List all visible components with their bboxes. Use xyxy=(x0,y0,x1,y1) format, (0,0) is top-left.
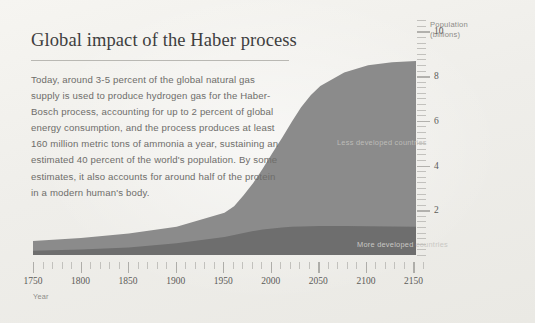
y-axis: 108642 xyxy=(417,18,477,255)
x-axis-minor-tick xyxy=(233,262,234,269)
x-axis-minor-tick xyxy=(309,262,310,269)
y-axis-major-tick xyxy=(417,121,430,122)
x-axis-minor-tick xyxy=(280,262,281,269)
x-axis-label: 1900 xyxy=(166,276,185,286)
y-axis-label: 4 xyxy=(434,161,439,171)
x-axis-minor-tick xyxy=(147,262,148,269)
x-axis-minor-tick xyxy=(356,262,357,269)
y-axis-minor-tick xyxy=(417,233,426,234)
y-axis-minor-tick xyxy=(417,216,426,217)
x-axis-minor-tick xyxy=(242,262,243,269)
x-axis-label: 2100 xyxy=(356,276,375,286)
y-axis-label: 8 xyxy=(434,71,439,81)
page-title: Global impact of the Haber process xyxy=(31,30,299,51)
x-axis-minor-tick xyxy=(204,262,205,269)
y-axis-minor-tick xyxy=(417,104,426,105)
x-axis-major-tick xyxy=(366,262,367,273)
y-axis-minor-tick xyxy=(417,98,426,99)
x-axis-minor-tick xyxy=(337,262,338,269)
x-axis-minor-tick xyxy=(71,262,72,269)
x-axis-major-tick xyxy=(223,262,224,273)
y-axis-minor-tick xyxy=(417,43,426,44)
x-axis-minor-tick xyxy=(328,262,329,269)
y-axis-minor-tick xyxy=(417,65,426,66)
x-axis-minor-tick xyxy=(62,262,63,269)
y-axis-minor-tick xyxy=(417,238,426,239)
x-axis-minor-tick xyxy=(290,262,291,269)
y-axis-minor-tick xyxy=(417,132,426,133)
x-axis-minor-tick xyxy=(90,262,91,269)
x-axis-minor-tick xyxy=(43,262,44,269)
y-axis-minor-tick xyxy=(417,149,426,150)
y-axis-minor-tick xyxy=(417,255,426,256)
x-axis-minor-tick xyxy=(100,262,101,269)
y-axis-minor-tick xyxy=(417,82,426,83)
y-axis-label: 10 xyxy=(434,26,444,36)
y-axis-major-tick xyxy=(417,210,430,211)
body-paragraph: Today, around 3-5 percent of the global … xyxy=(31,72,283,201)
y-axis-minor-tick xyxy=(417,126,426,127)
x-axis-major-tick xyxy=(271,262,272,273)
x-axis-minor-tick xyxy=(195,262,196,269)
x-axis-minor-tick xyxy=(404,262,405,269)
x-axis-major-tick xyxy=(176,262,177,273)
x-axis-label: 2050 xyxy=(309,276,328,286)
y-axis-minor-tick xyxy=(417,249,426,250)
y-axis-minor-tick xyxy=(417,26,426,27)
y-axis-minor-tick xyxy=(417,87,426,88)
y-axis-minor-tick xyxy=(417,37,426,38)
x-axis-major-tick xyxy=(413,262,414,273)
y-axis-minor-tick xyxy=(417,48,426,49)
series-label-less-developed: Less developed countries xyxy=(337,138,427,147)
x-axis-label: 2000 xyxy=(261,276,280,286)
y-axis-minor-tick xyxy=(417,227,426,228)
x-axis-minor-tick xyxy=(109,262,110,269)
x-axis xyxy=(33,262,423,276)
x-axis-minor-tick xyxy=(119,262,120,269)
y-axis-minor-tick xyxy=(417,115,426,116)
x-axis-minor-tick xyxy=(166,262,167,269)
x-axis-minor-tick xyxy=(138,262,139,269)
y-axis-minor-tick xyxy=(417,20,426,21)
y-axis-minor-tick xyxy=(417,93,426,94)
y-axis-label: 6 xyxy=(434,116,439,126)
y-axis-minor-tick xyxy=(417,71,426,72)
x-axis-minor-tick xyxy=(347,262,348,269)
y-axis-minor-tick xyxy=(417,194,426,195)
x-axis-major-tick xyxy=(128,262,129,273)
y-axis-minor-tick xyxy=(417,154,426,155)
x-axis-minor-tick xyxy=(252,262,253,269)
y-axis-minor-tick xyxy=(417,110,426,111)
infographic-page: Less developed countries More developed … xyxy=(0,0,535,323)
x-axis-minor-tick xyxy=(261,262,262,269)
y-axis-major-tick xyxy=(417,31,430,32)
y-axis-minor-tick xyxy=(417,221,426,222)
y-axis-minor-tick xyxy=(417,182,426,183)
x-axis-minor-tick xyxy=(423,262,424,269)
x-axis-caption: Year xyxy=(33,292,49,301)
y-axis-minor-tick xyxy=(417,205,426,206)
x-axis-minor-tick xyxy=(157,262,158,269)
x-axis-minor-tick xyxy=(185,262,186,269)
x-axis-label: 1800 xyxy=(71,276,90,286)
y-axis-minor-tick xyxy=(417,138,426,139)
text-block: Global impact of the Haber process Today… xyxy=(31,30,299,201)
x-axis-label: 2150 xyxy=(404,276,423,286)
y-axis-minor-tick xyxy=(417,54,426,55)
y-axis-minor-tick xyxy=(417,188,426,189)
x-axis-label: 1950 xyxy=(214,276,233,286)
x-axis-minor-tick xyxy=(375,262,376,269)
x-axis-major-tick xyxy=(33,262,34,273)
title-divider xyxy=(31,60,289,61)
y-axis-minor-tick xyxy=(417,244,426,245)
y-axis-minor-tick xyxy=(417,160,426,161)
y-axis-minor-tick xyxy=(417,177,426,178)
y-axis-label: 2 xyxy=(434,205,439,215)
x-axis-minor-tick xyxy=(385,262,386,269)
y-axis-minor-tick xyxy=(417,59,426,60)
x-axis-major-tick xyxy=(81,262,82,273)
x-axis-minor-tick xyxy=(214,262,215,269)
x-axis-minor-tick xyxy=(52,262,53,269)
x-axis-label: 1750 xyxy=(24,276,43,286)
y-axis-minor-tick xyxy=(417,199,426,200)
